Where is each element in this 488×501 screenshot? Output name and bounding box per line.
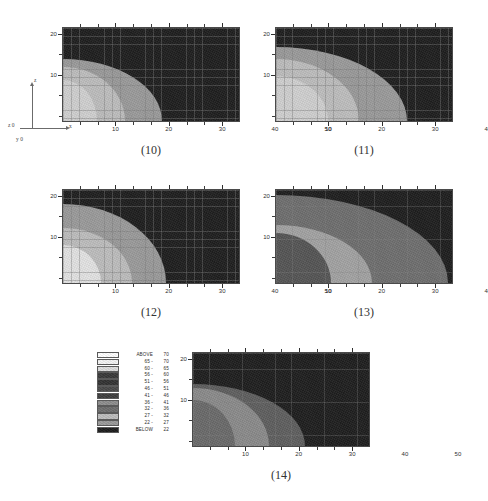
legend-row-label: 46 - — [123, 386, 153, 392]
legend-row-label: 60 - — [123, 366, 153, 372]
panel-11-xtick-10: 10 — [325, 126, 332, 132]
panel-14-ytick-20: 20 — [174, 356, 187, 362]
legend-row-value: 41 — [157, 400, 169, 406]
legend-swatch — [97, 386, 119, 392]
panel-14-plot — [192, 352, 370, 447]
panel-14-caption: (14) — [271, 468, 291, 483]
panel-14-xtick-50: 50 — [455, 451, 462, 457]
panel-12-contour-bands — [63, 190, 239, 283]
z-axis-line — [32, 86, 33, 128]
legend-swatch — [97, 400, 119, 406]
panel-10: 10 20 30 40 50 20 10 (10) — [62, 27, 240, 122]
legend-row: 41 - 46 — [97, 393, 173, 399]
panel-14-xtick-10: 10 — [242, 451, 249, 457]
legend-row: BELOW 22 — [97, 427, 173, 433]
panel-14-ytick-10: 10 — [174, 397, 187, 403]
legend-swatch — [97, 352, 119, 358]
legend-row-value: 46 — [157, 393, 169, 399]
contour-figure: z x z 0 y 0 ABOVE 70 65 - 70 60 - 65 56 … — [0, 0, 488, 501]
panel-12-xtick-40: 40 — [272, 288, 279, 294]
panel-10-xtick-30: 30 — [219, 126, 226, 132]
panel-10-xtick-10: 10 — [112, 126, 119, 132]
legend-row-value: 65 — [157, 366, 169, 372]
panel-10-xtick-20: 20 — [165, 126, 172, 132]
legend-row-label: 51 - — [123, 379, 153, 385]
x-axis-line — [20, 128, 66, 129]
legend-row-label: ABOVE — [123, 352, 153, 358]
legend-swatch — [97, 393, 119, 399]
panel-12-ytick-10: 10 — [44, 234, 57, 240]
legend-row: 22 - 27 — [97, 420, 173, 426]
panel-14-xtick-30: 30 — [349, 451, 356, 457]
legend-swatch — [97, 379, 119, 385]
panel-11-ytick-10: 10 — [257, 72, 270, 78]
panel-14-contour-bands — [193, 353, 369, 446]
panel-11-contour-bands — [276, 28, 452, 121]
panel-12-ytick-20: 20 — [44, 193, 57, 199]
legend-row-value: 22 — [157, 427, 169, 433]
panel-13-plot — [275, 189, 453, 284]
panel-13-ytick-10: 10 — [257, 234, 270, 240]
panel-12-xtick-20: 20 — [165, 288, 172, 294]
legend-row-value: 51 — [157, 386, 169, 392]
panel-13-xtick-40: 40 — [485, 288, 488, 294]
panel-10-plot — [62, 27, 240, 122]
z-origin-label: z 0 — [8, 122, 15, 128]
legend-row-label: 65 - — [123, 359, 153, 365]
panel-10-contour-bands — [63, 28, 239, 121]
panel-10-xtick-40: 40 — [272, 126, 279, 132]
legend-row-value: 56 — [157, 379, 169, 385]
legend-row: 65 - 70 — [97, 359, 173, 365]
panel-11-ytick-20: 20 — [257, 31, 270, 37]
panel-12: 10 20 30 40 50 20 10 (12) — [62, 189, 240, 284]
legend-swatch — [97, 359, 119, 365]
panel-11-plot — [275, 27, 453, 122]
y-origin-label: y 0 — [16, 136, 23, 142]
legend-swatch — [97, 427, 119, 433]
panel-12-plot — [62, 189, 240, 284]
panel-10-caption: (10) — [141, 143, 161, 158]
panel-14-xtick-40: 40 — [402, 451, 409, 457]
legend-row-label: BELOW — [123, 427, 153, 433]
legend-row-label: 27 - — [123, 413, 153, 419]
panel-11-xtick-30: 30 — [432, 126, 439, 132]
legend-row-value: 70 — [157, 359, 169, 365]
legend-row: 51 - 56 — [97, 379, 173, 385]
panel-11-xtick-40: 40 — [485, 126, 488, 132]
panel-12-xtick-10: 10 — [112, 288, 119, 294]
legend-row-label: 32 - — [123, 406, 153, 412]
contour-legend: ABOVE 70 65 - 70 60 - 65 56 - 60 51 - 56… — [97, 352, 173, 434]
legend-row: 36 - 41 — [97, 400, 173, 406]
legend-swatch — [97, 366, 119, 372]
legend-swatch — [97, 420, 119, 426]
panel-10-ytick-10: 10 — [44, 72, 57, 78]
panel-11-caption: (11) — [354, 143, 374, 158]
x-axis-glyph-label: x — [69, 123, 72, 129]
legend-row: 60 - 65 — [97, 366, 173, 372]
panel-13: 10 20 30 40 50 20 10 (13) — [275, 189, 453, 284]
legend-row: 32 - 36 — [97, 406, 173, 412]
panel-13-xtick-10: 10 — [325, 288, 332, 294]
legend-row-value: 70 — [157, 352, 169, 358]
panel-11-xtick-20: 20 — [378, 126, 385, 132]
panel-14: 10 20 30 40 50 20 10 (14) — [192, 352, 370, 447]
legend-row-value: 60 — [157, 372, 169, 378]
panel-13-contour-bands — [276, 190, 452, 283]
legend-row: 27 - 32 — [97, 413, 173, 419]
legend-row: 56 - 60 — [97, 372, 173, 378]
panel-13-xtick-30: 30 — [432, 288, 439, 294]
panel-14-xtick-20: 20 — [295, 451, 302, 457]
legend-swatch — [97, 372, 119, 378]
panel-13-ytick-20: 20 — [257, 193, 270, 199]
legend-row: 46 - 51 — [97, 386, 173, 392]
legend-row-label: 56 - — [123, 372, 153, 378]
z-axis-glyph-label: z — [34, 77, 36, 83]
panel-11: 10 20 30 40 50 20 10 (11) — [275, 27, 453, 122]
legend-swatch — [97, 406, 119, 412]
panel-12-caption: (12) — [141, 305, 161, 320]
panel-13-caption: (13) — [354, 305, 374, 320]
panel-12-xtick-30: 30 — [219, 288, 226, 294]
panel-10-ytick-20: 20 — [44, 31, 57, 37]
legend-row-label: 36 - — [123, 400, 153, 406]
legend-row-label: 41 - — [123, 393, 153, 399]
